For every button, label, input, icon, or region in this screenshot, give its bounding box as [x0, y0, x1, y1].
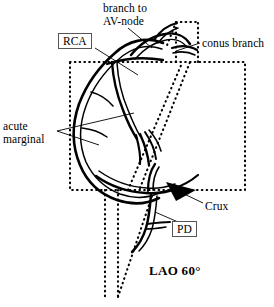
dotted-projection-box: [70, 22, 245, 297]
box-depth-diagonal-left: [118, 196, 152, 297]
label-projection-view: LAO 60°: [149, 263, 201, 279]
rca-side-twig-mid: [82, 128, 107, 137]
label-box-rca: RCA: [58, 33, 92, 49]
label-conus-branch: conus branch: [202, 37, 264, 50]
label-acute-marginal-line2: marginal: [3, 133, 44, 145]
box-depth-diagonal-mid: [128, 63, 182, 190]
rca-side-twig-upper: [91, 92, 113, 106]
av-node-branch: [154, 23, 177, 40]
label-branch-to-av-node: branch toAV-node: [103, 2, 147, 27]
label-acute-marginal-line1: acute: [3, 120, 28, 132]
leader-acute-marginal-1: [57, 113, 134, 131]
pd-septal-twig: [147, 222, 170, 224]
acute-marginal-finger-1: [136, 135, 140, 164]
label-branch-to-av-node-line1: branch to: [103, 2, 147, 14]
vessel-tree: [74, 23, 198, 252]
conus-branch-2: [173, 52, 195, 55]
label-branch-to-av-node-line2: AV-node: [103, 15, 144, 27]
label-box-pd: PD: [172, 221, 197, 237]
box-depth-diagonal-mid2: [140, 62, 190, 188]
label-crux: Crux: [205, 200, 228, 213]
pd-septal-twig-2: [146, 227, 166, 229]
coronary-angiography-diagram: branch toAV-node conus branch acutemargi…: [0, 0, 274, 307]
rca-distal-to-crux-outer: [96, 176, 177, 193]
label-acute-marginal: acutemarginal: [3, 120, 44, 145]
posterolateral-branch-2: [153, 167, 159, 190]
leader-acute-marginal-2: [57, 131, 99, 145]
